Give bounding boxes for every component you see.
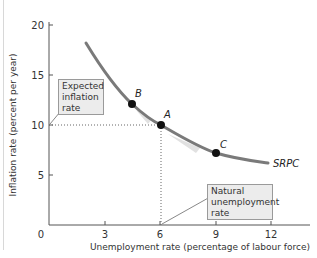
- y-tick-10: 10: [31, 120, 44, 131]
- natural-unemployment-callout: Natural unemployment rate: [207, 184, 273, 220]
- y-tick-20: 20: [31, 20, 44, 31]
- callout-line: rate: [211, 208, 269, 219]
- y-ticks: [49, 25, 53, 175]
- point-c-label: C: [220, 139, 227, 150]
- y-axis-title: Inflation rate (percent per year): [8, 53, 18, 196]
- callout-line: Natural: [211, 186, 269, 197]
- x-tick-12: 12: [265, 229, 278, 240]
- x-tick-9: 9: [213, 229, 219, 240]
- point-b: [128, 100, 136, 108]
- x-ticks: [105, 221, 271, 225]
- point-c: [212, 149, 220, 157]
- natural-callout-leader: [162, 197, 210, 224]
- callout-line: Expected: [62, 81, 100, 92]
- expected-inflation-callout: Expected inflation rate: [58, 79, 104, 115]
- origin-label: 0: [38, 229, 44, 240]
- srpc-curve: [86, 43, 268, 163]
- y-tick-15: 15: [31, 70, 44, 81]
- y-tick-5: 5: [38, 170, 44, 181]
- callout-line: unemployment: [211, 197, 269, 208]
- point-a: [157, 121, 165, 129]
- chart-frame: 20 15 10 5 0 3 6 9 12 Unemployment rate …: [0, 0, 317, 258]
- point-b-label: B: [135, 88, 142, 99]
- callout-line: inflation: [62, 92, 100, 103]
- x-tick-6: 6: [157, 229, 163, 240]
- x-axis-title: Unemployment rate (percentage of labour …: [90, 242, 310, 252]
- x-tick-3: 3: [102, 229, 108, 240]
- callout-line: rate: [62, 103, 100, 114]
- point-a-label: A: [163, 109, 171, 120]
- srpc-label: SRPC: [273, 158, 299, 169]
